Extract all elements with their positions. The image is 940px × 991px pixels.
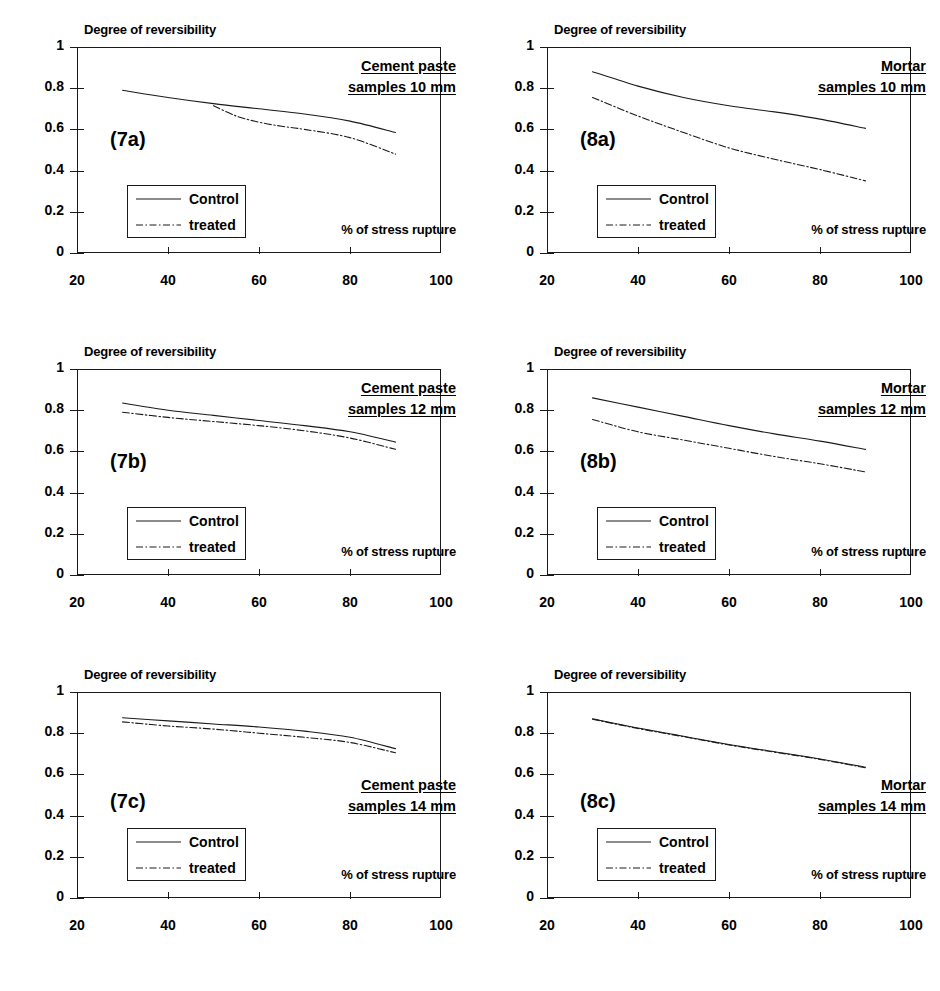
legend-item-treated[interactable]: treated [598, 855, 715, 881]
y-tick-label: 0.2 [18, 202, 64, 218]
y-tick-label: 0.4 [18, 483, 64, 499]
y-tick-label: 1 [488, 359, 534, 375]
y-tick-label: 0.6 [488, 119, 534, 135]
series-line-treated [593, 419, 866, 472]
y-tick-mark-outer [540, 212, 547, 213]
y-tick-label: 0.8 [488, 400, 534, 416]
legend-swatch-treated-icon [605, 542, 652, 552]
x-tick-label: 40 [138, 594, 198, 610]
legend-item-treated[interactable]: treated [128, 855, 245, 881]
y-tick-mark-outer [540, 898, 547, 899]
legend-label: treated [189, 539, 236, 555]
legend-item-treated[interactable]: treated [598, 534, 715, 560]
x-tick-label: 40 [138, 272, 198, 288]
x-tick-label: 80 [790, 917, 850, 933]
legend: Controltreated [597, 185, 716, 238]
x-tick-label: 80 [790, 272, 850, 288]
y-axis-title: Degree of reversibility [84, 344, 216, 359]
y-tick-mark-outer [70, 493, 77, 494]
legend-item-control[interactable]: Control [598, 186, 715, 212]
x-tick-label: 100 [881, 272, 940, 288]
x-tick-label: 20 [47, 917, 107, 933]
y-tick-mark-outer [70, 253, 77, 254]
x-tick-label: 80 [320, 917, 380, 933]
y-tick-label: 0.2 [18, 524, 64, 540]
y-tick-mark-outer [70, 171, 77, 172]
legend-item-control[interactable]: Control [598, 829, 715, 855]
legend-swatch-treated-icon [135, 220, 182, 230]
x-tick-label: 20 [517, 272, 577, 288]
y-tick-label: 0.2 [488, 524, 534, 540]
y-tick-label: 0 [18, 565, 64, 581]
y-tick-mark-outer [540, 171, 547, 172]
legend: Controltreated [597, 828, 716, 881]
y-tick-mark-outer [70, 129, 77, 130]
legend-swatch-treated-icon [135, 542, 182, 552]
y-tick-mark-outer [70, 410, 77, 411]
figure-grid: Degree of reversibility00.20.40.60.81204… [0, 0, 940, 991]
y-tick-mark-outer [70, 733, 77, 734]
x-tick-label: 80 [320, 272, 380, 288]
legend-item-control[interactable]: Control [128, 186, 245, 212]
y-tick-mark-outer [540, 47, 547, 48]
y-tick-mark-outer [70, 451, 77, 452]
y-tick-mark-outer [70, 575, 77, 576]
x-tick-label: 60 [229, 594, 289, 610]
legend-item-control[interactable]: Control [128, 829, 245, 855]
y-tick-label: 0.4 [18, 161, 64, 177]
y-tick-label: 0.8 [488, 723, 534, 739]
y-tick-label: 0.8 [18, 78, 64, 94]
x-tick-label: 100 [881, 594, 940, 610]
chart-panel-8b: Degree of reversibility00.20.40.60.81204… [470, 322, 940, 642]
y-tick-mark-outer [70, 369, 77, 370]
legend-item-treated[interactable]: treated [128, 212, 245, 238]
legend-item-treated[interactable]: treated [598, 212, 715, 238]
x-tick-label: 60 [229, 272, 289, 288]
x-tick-label: 40 [608, 272, 668, 288]
chart-panel-7c: Degree of reversibility00.20.40.60.81204… [0, 645, 470, 965]
x-tick-label: 80 [320, 594, 380, 610]
legend-swatch-control-icon [135, 194, 182, 204]
y-tick-mark-outer [540, 253, 547, 254]
x-tick-label: 60 [229, 917, 289, 933]
plot-area-8b: Degree of reversibility00.20.40.60.81204… [470, 322, 940, 642]
y-tick-mark-outer [70, 816, 77, 817]
legend-label: Control [659, 191, 709, 207]
legend-swatch-control-icon [605, 516, 652, 526]
y-tick-mark-outer [540, 733, 547, 734]
legend-item-control[interactable]: Control [128, 508, 245, 534]
y-axis-title: Degree of reversibility [84, 667, 216, 682]
plot-area-7a: Degree of reversibility00.20.40.60.81204… [0, 0, 470, 320]
y-tick-label: 1 [488, 682, 534, 698]
y-tick-mark-outer [70, 898, 77, 899]
y-tick-mark-outer [70, 774, 77, 775]
legend-item-treated[interactable]: treated [128, 534, 245, 560]
y-tick-label: 0.6 [18, 119, 64, 135]
legend-swatch-control-icon [135, 837, 182, 847]
y-tick-label: 1 [18, 359, 64, 375]
y-tick-label: 0 [488, 888, 534, 904]
series-line-control [593, 398, 866, 450]
y-tick-label: 0.8 [18, 400, 64, 416]
legend-swatch-treated-icon [605, 220, 652, 230]
y-tick-mark-outer [540, 451, 547, 452]
y-tick-mark-outer [540, 575, 547, 576]
y-tick-label: 0.6 [18, 441, 64, 457]
legend: Controltreated [127, 828, 246, 881]
y-tick-label: 0.4 [18, 806, 64, 822]
legend-label: treated [189, 217, 236, 233]
y-tick-mark-outer [540, 534, 547, 535]
y-axis-title: Degree of reversibility [554, 667, 686, 682]
legend-label: treated [659, 860, 706, 876]
legend: Controltreated [597, 507, 716, 560]
series-line-control [123, 90, 396, 132]
y-tick-label: 0.6 [488, 441, 534, 457]
y-axis-title: Degree of reversibility [84, 22, 216, 37]
series-line-control [123, 403, 396, 442]
legend-item-control[interactable]: Control [598, 508, 715, 534]
x-tick-label: 100 [411, 917, 471, 933]
series-line-control [593, 72, 866, 129]
plot-area-8a: Degree of reversibility00.20.40.60.81204… [470, 0, 940, 320]
y-tick-mark-outer [540, 88, 547, 89]
x-tick-label: 40 [608, 917, 668, 933]
